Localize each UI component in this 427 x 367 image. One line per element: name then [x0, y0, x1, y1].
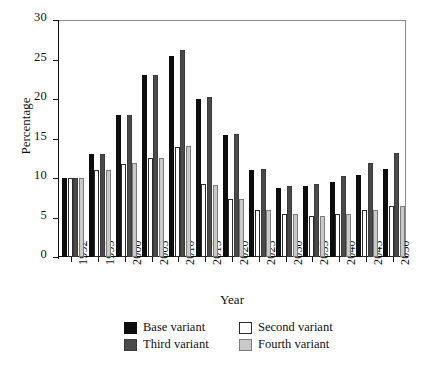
bar — [180, 50, 185, 257]
x-axis-tick-mark — [98, 257, 99, 262]
bar — [106, 170, 111, 257]
legend-swatch — [124, 322, 137, 334]
bar — [68, 178, 73, 257]
bar — [169, 56, 174, 257]
bar-group — [169, 20, 191, 257]
bar-group — [196, 20, 218, 257]
bar-group — [303, 20, 325, 257]
bar — [320, 216, 325, 257]
bar — [207, 97, 212, 257]
bar-group — [89, 20, 111, 257]
bar — [368, 163, 373, 257]
y-axis-tick-label: 25 — [34, 51, 47, 63]
bar — [62, 178, 67, 257]
bar — [383, 169, 388, 257]
y-axis-tick-label: 20 — [34, 90, 47, 102]
bar — [186, 146, 191, 257]
y-axis-tick-label: 5 — [41, 209, 47, 221]
bar-group — [383, 20, 405, 257]
bar — [249, 170, 254, 257]
bar — [287, 186, 292, 257]
bar — [293, 214, 298, 257]
bar — [335, 214, 340, 257]
bar — [303, 186, 308, 257]
x-axis-tick-mark — [232, 257, 233, 262]
x-axis-tick-mark — [312, 257, 313, 262]
bars-layer — [58, 20, 406, 257]
legend-label: Base variant — [143, 320, 205, 335]
legend-label: Third variant — [143, 337, 209, 352]
bar-group — [276, 20, 298, 257]
bar — [255, 210, 260, 257]
bar — [234, 134, 239, 257]
x-axis-tick-mark — [286, 257, 287, 262]
bar — [228, 199, 233, 257]
x-axis: 1992199520002005201020152020202520302035… — [58, 257, 406, 317]
legend-item: Second variant — [239, 320, 354, 335]
bar — [213, 185, 218, 257]
bar-group — [249, 20, 271, 257]
bar — [266, 210, 271, 257]
bar — [127, 115, 132, 257]
bar — [159, 158, 164, 257]
legend-swatch — [239, 339, 252, 351]
bar — [341, 176, 346, 257]
bar — [389, 206, 394, 257]
x-axis-tick-mark — [152, 257, 153, 262]
bar — [196, 99, 201, 257]
bar — [373, 210, 378, 257]
bar — [239, 199, 244, 257]
bar — [201, 184, 206, 257]
bar — [116, 115, 121, 257]
legend-item: Fourth variant — [239, 337, 354, 352]
y-axis-tick-label: 0 — [41, 248, 47, 260]
bar — [132, 163, 137, 257]
bar — [276, 188, 281, 257]
bar — [175, 147, 180, 257]
x-axis-tick-mark — [178, 257, 179, 262]
bar — [148, 158, 153, 257]
bar — [94, 170, 99, 257]
bar — [330, 182, 335, 257]
bar — [142, 75, 147, 257]
bar — [153, 75, 158, 257]
x-axis-tick-mark — [339, 257, 340, 262]
bar — [394, 153, 399, 257]
bar-group — [142, 20, 164, 257]
y-axis-tick-label: 15 — [34, 130, 47, 142]
x-axis-tick-mark — [259, 257, 260, 262]
legend-row: Base variantSecond variant — [124, 319, 354, 336]
x-axis-tick-mark — [71, 257, 72, 262]
x-axis-tick-mark — [393, 257, 394, 262]
x-axis-tick-mark — [366, 257, 367, 262]
y-axis-tick-label: 30 — [34, 11, 47, 23]
x-axis-title: Year — [58, 292, 406, 308]
bar-group — [62, 20, 84, 257]
bar — [121, 164, 126, 257]
bar — [89, 154, 94, 257]
bar-group — [356, 20, 378, 257]
bar — [362, 210, 367, 257]
bar-group — [223, 20, 245, 257]
legend-item: Base variant — [124, 320, 239, 335]
legend-label: Second variant — [258, 320, 333, 335]
legend-swatch — [239, 322, 252, 334]
bar-chart-figure: Percentage 051015202530 1992199520002005… — [0, 0, 427, 367]
y-axis-tick-label: 10 — [34, 169, 47, 181]
bar — [100, 154, 105, 257]
bar-group — [330, 20, 352, 257]
bar — [314, 184, 319, 257]
legend-label: Fourth variant — [258, 337, 329, 352]
bar-group — [116, 20, 138, 257]
bar — [309, 216, 314, 257]
x-axis-tick-mark — [125, 257, 126, 262]
bar — [282, 214, 287, 257]
legend-item: Third variant — [124, 337, 239, 352]
bar — [346, 214, 351, 257]
legend-row: Third variantFourth variant — [124, 336, 354, 353]
bar — [356, 175, 361, 257]
y-axis-title: Percentage — [18, 51, 34, 201]
legend-swatch — [124, 339, 137, 351]
bar — [261, 169, 266, 257]
chart-legend: Base variantSecond variantThird variantF… — [124, 319, 354, 353]
